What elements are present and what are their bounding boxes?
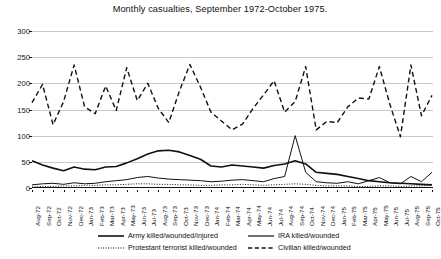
x-axis-tick-label: Aug-72 bbox=[34, 206, 41, 226]
legend-swatch bbox=[98, 244, 124, 252]
legend-swatch bbox=[98, 232, 124, 240]
x-axis-tick bbox=[190, 190, 191, 192]
x-axis-tick bbox=[137, 190, 138, 192]
x-axis-tick-label: Mar-73 bbox=[108, 206, 115, 226]
chart-title: Monthly casualties, September 1972-Octob… bbox=[0, 4, 440, 14]
x-axis-tick-label: Apr-74 bbox=[245, 207, 252, 226]
x-axis-tick-label: Oct-75 bbox=[434, 207, 441, 226]
x-axis-tick-label: Dec-74 bbox=[329, 206, 336, 226]
y-axis-tick-label: 250 bbox=[2, 53, 30, 62]
x-axis-tick bbox=[200, 190, 201, 192]
x-axis-tick-label: Oct-73 bbox=[182, 207, 189, 226]
legend-label: IRA killed/wounded bbox=[278, 231, 339, 240]
x-axis-tick-label: Jan-74 bbox=[213, 207, 220, 226]
x-axis-tick-label: Jun-73 bbox=[140, 207, 147, 226]
x-axis-tick bbox=[85, 190, 86, 192]
x-axis-tick bbox=[358, 190, 359, 192]
x-axis-tick bbox=[243, 190, 244, 192]
x-axis-tick bbox=[369, 190, 370, 192]
x-axis-tick-label: Feb-75 bbox=[350, 206, 357, 226]
x-axis-tick-label: Apr-75 bbox=[371, 207, 378, 226]
x-axis-tick-label: Jul-74 bbox=[277, 209, 284, 226]
series-line bbox=[32, 136, 432, 185]
x-axis-tick-label: Mar-75 bbox=[361, 206, 368, 226]
x-axis-tick-label: Sep-72 bbox=[45, 206, 52, 226]
x-axis-tick-label: Apr-73 bbox=[119, 207, 126, 226]
legend-label: Protestant terrorist killed/wounded bbox=[128, 243, 237, 252]
x-axis-tick bbox=[390, 190, 391, 192]
x-axis-tick bbox=[169, 190, 170, 192]
x-axis-tick-label: Feb-74 bbox=[224, 206, 231, 226]
series-lines bbox=[32, 31, 433, 188]
x-axis-tick bbox=[179, 190, 180, 192]
x-axis-tick bbox=[421, 190, 422, 192]
x-axis-tick-label: May-73 bbox=[129, 205, 136, 226]
y-axis-tick-label: 200 bbox=[2, 79, 30, 88]
x-axis-tick bbox=[221, 190, 222, 192]
x-axis-tick-label: Jan-75 bbox=[340, 207, 347, 226]
x-axis-line bbox=[32, 187, 433, 188]
x-axis-tick bbox=[295, 190, 296, 192]
legend-swatch bbox=[248, 232, 274, 240]
x-axis-tick bbox=[232, 190, 233, 192]
x-axis-tick bbox=[264, 190, 265, 192]
x-axis-tick bbox=[337, 190, 338, 192]
x-axis-tick bbox=[285, 190, 286, 192]
y-axis-tick-label: 0 bbox=[2, 184, 30, 193]
y-axis-labels: 050100150200250300 bbox=[0, 0, 30, 259]
y-axis-tick bbox=[29, 188, 32, 189]
x-axis-tick bbox=[95, 190, 96, 192]
x-axis-tick-label: Jun-75 bbox=[392, 207, 399, 226]
x-axis-tick bbox=[74, 190, 75, 192]
x-axis-tick bbox=[116, 190, 117, 192]
x-axis-tick bbox=[306, 190, 307, 192]
x-axis-tick-label: Aug-73 bbox=[161, 206, 168, 226]
x-axis-tick-label: Mar-74 bbox=[234, 206, 241, 226]
legend-swatch bbox=[248, 244, 274, 252]
x-axis-tick-label: Dec-72 bbox=[77, 206, 84, 226]
x-axis-tick bbox=[211, 190, 212, 192]
x-axis-tick-label: Jan-73 bbox=[87, 207, 94, 226]
x-axis-tick bbox=[274, 190, 275, 192]
x-axis-tick bbox=[43, 190, 44, 192]
x-axis-tick-label: Jul-75 bbox=[403, 209, 410, 226]
x-axis-tick-label: May-75 bbox=[382, 205, 389, 226]
series-line bbox=[32, 64, 432, 136]
x-axis-tick-label: Sep-74 bbox=[298, 206, 305, 226]
y-axis-tick-label: 50 bbox=[2, 157, 30, 166]
x-axis-tick-label: Oct-72 bbox=[55, 207, 62, 226]
x-axis-tick-label: Jun-74 bbox=[266, 207, 273, 226]
x-axis-tick bbox=[64, 190, 65, 192]
legend-label: Army killed/wounded/injured bbox=[128, 231, 218, 240]
x-axis-tick bbox=[348, 190, 349, 192]
x-axis-tick bbox=[127, 190, 128, 192]
x-axis-tick-label: Jul-73 bbox=[150, 209, 157, 226]
x-axis-tick bbox=[400, 190, 401, 192]
y-axis-tick-label: 100 bbox=[2, 131, 30, 140]
x-axis-tick bbox=[106, 190, 107, 192]
x-axis-tick-label: May-74 bbox=[255, 205, 262, 226]
x-axis-tick-label: Sep-75 bbox=[424, 206, 431, 226]
x-axis-tick bbox=[158, 190, 159, 192]
x-axis-tick-label: Feb-73 bbox=[98, 206, 105, 226]
x-axis-tick bbox=[253, 190, 254, 192]
x-axis-tick bbox=[379, 190, 380, 192]
x-axis-tick-label: Nov-73 bbox=[192, 206, 199, 226]
x-axis-tick bbox=[316, 190, 317, 192]
x-axis-tick bbox=[32, 190, 33, 192]
x-axis-tick-label: Aug-75 bbox=[413, 206, 420, 226]
y-axis-tick-label: 150 bbox=[2, 105, 30, 114]
legend-label: Civilian killed/wounded bbox=[278, 243, 351, 252]
plot-area bbox=[32, 31, 433, 188]
x-axis-tick bbox=[148, 190, 149, 192]
chart-legend: Army killed/wounded/injuredIRA killed/wo… bbox=[0, 230, 440, 258]
x-axis-tick-label: Aug-74 bbox=[287, 206, 294, 226]
x-axis-tick-label: Nov-74 bbox=[319, 206, 326, 226]
x-axis-tick bbox=[53, 190, 54, 192]
x-axis-tick-label: Dec-73 bbox=[203, 206, 210, 226]
x-axis-tick-label: Oct-74 bbox=[308, 207, 315, 226]
y-axis-tick-label: 300 bbox=[2, 27, 30, 36]
x-axis-tick-label: Sep-73 bbox=[171, 206, 178, 226]
x-axis-tick-label: Nov-72 bbox=[66, 206, 73, 226]
